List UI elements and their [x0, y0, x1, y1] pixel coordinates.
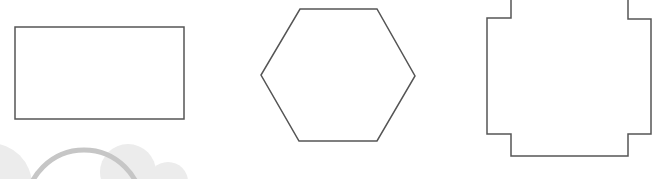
notched-square-shape [487, 0, 651, 156]
shapes-diagram [0, 0, 658, 179]
hexagon-shape [261, 9, 415, 141]
decorative-clouds [0, 143, 188, 179]
shape-outlines [15, 0, 651, 156]
cloud-blob-left [0, 143, 32, 179]
rectangle-shape [15, 27, 184, 119]
